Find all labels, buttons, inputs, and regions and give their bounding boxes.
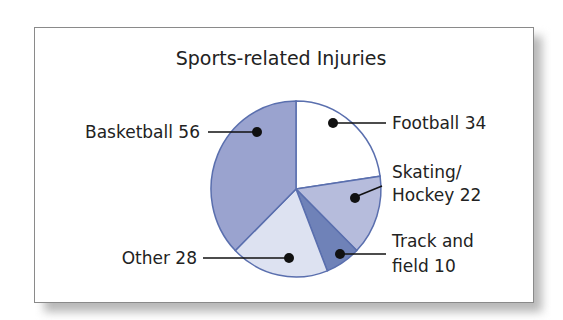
label-track-line2: field 10	[392, 256, 456, 276]
label-skating-line1: Skating/	[392, 162, 462, 182]
label-skating-line2: Hockey 22	[392, 185, 481, 205]
label-football: Football 34	[392, 113, 486, 133]
label-basketball: Basketball 56	[85, 122, 200, 142]
pie-slices	[211, 101, 381, 277]
pie-slice-football	[296, 101, 380, 189]
label-other: Other 28	[122, 248, 197, 268]
chart-title: Sports-related Injuries	[176, 47, 387, 69]
pie-chart: Sports-related Injuries Football 34 Skat…	[0, 0, 563, 320]
label-track-line1: Track and	[391, 231, 474, 251]
